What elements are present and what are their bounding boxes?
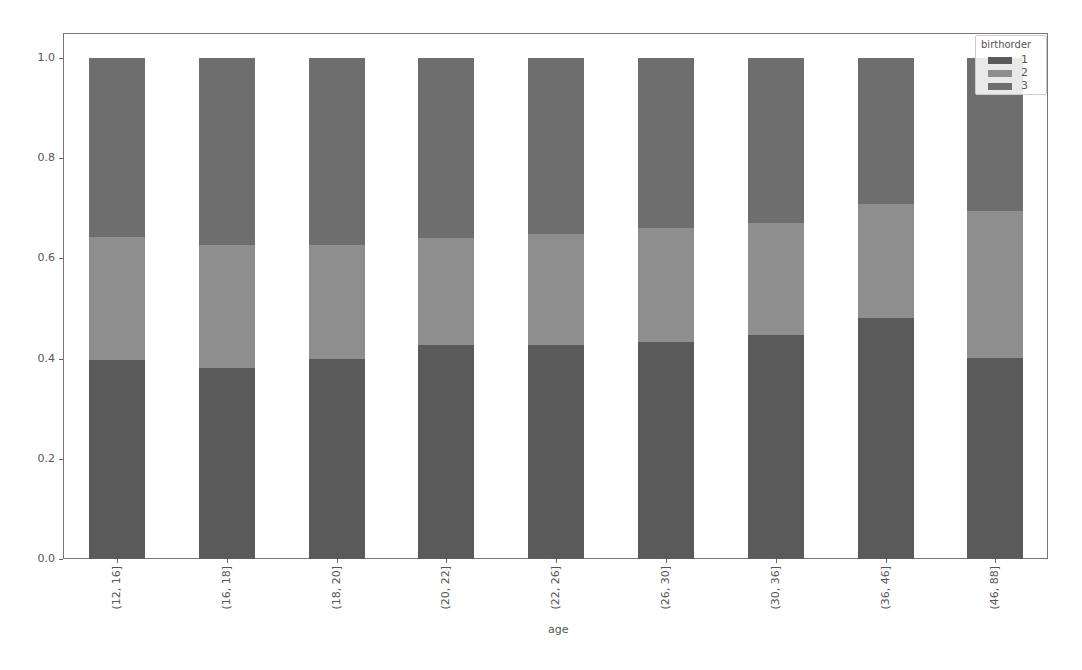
x-tick-label: (30, 36] <box>769 566 782 610</box>
x-tick-mark <box>117 559 118 563</box>
x-tick-mark <box>666 559 667 563</box>
x-tick-mark <box>446 559 447 563</box>
bar-segment-birthorder-2 <box>309 245 365 359</box>
bar-segment-birthorder-3 <box>638 58 694 228</box>
bar-segment-birthorder-3 <box>89 58 145 237</box>
y-tick-mark <box>59 158 63 159</box>
legend-title: birthorder <box>981 39 1031 50</box>
legend-label: 2 <box>1021 66 1028 79</box>
bar-segment-birthorder-2 <box>967 211 1023 358</box>
bar-segment-birthorder-1 <box>309 359 365 559</box>
x-tick-mark <box>886 559 887 563</box>
bar-segment-birthorder-1 <box>418 345 474 559</box>
bar-segment-birthorder-2 <box>528 234 584 345</box>
x-tick-mark <box>337 559 338 563</box>
legend-label: 1 <box>1021 53 1028 66</box>
x-axis-label: age <box>548 623 569 636</box>
bar-segment-birthorder-1 <box>89 360 145 559</box>
y-tick-label: 0.8 <box>0 151 55 164</box>
x-tick-label: (46, 88] <box>988 566 1001 610</box>
x-tick-mark <box>227 559 228 563</box>
x-tick-mark <box>556 559 557 563</box>
x-tick-label: (26, 30] <box>659 566 672 610</box>
bar-segment-birthorder-3 <box>748 58 804 223</box>
y-tick-label: 0.4 <box>0 352 55 365</box>
x-tick-label: (18, 20] <box>330 566 343 610</box>
legend-swatch <box>988 83 1012 90</box>
legend: birthorder 123 <box>975 35 1047 95</box>
y-tick-mark <box>59 559 63 560</box>
x-tick-mark <box>776 559 777 563</box>
bar-segment-birthorder-3 <box>858 58 914 204</box>
bar-segment-birthorder-1 <box>638 342 694 559</box>
x-tick-mark <box>995 559 996 563</box>
x-tick-label: (12, 16] <box>110 566 123 610</box>
y-tick-mark <box>59 58 63 59</box>
y-tick-mark <box>59 258 63 259</box>
legend-swatch <box>988 70 1012 77</box>
legend-label: 3 <box>1021 79 1028 92</box>
y-tick-label: 0.6 <box>0 251 55 264</box>
bar-segment-birthorder-2 <box>89 237 145 360</box>
x-tick-label: (16, 18] <box>220 566 233 610</box>
bar-segment-birthorder-1 <box>967 358 1023 559</box>
y-tick-mark <box>59 459 63 460</box>
bar-segment-birthorder-3 <box>309 58 365 245</box>
y-tick-mark <box>59 359 63 360</box>
bar-segment-birthorder-1 <box>858 318 914 559</box>
y-tick-label: 0.2 <box>0 452 55 465</box>
x-tick-label: (20, 22] <box>439 566 452 610</box>
legend-swatch <box>988 57 1012 64</box>
x-tick-label: (36, 46] <box>879 566 892 610</box>
bar-segment-birthorder-1 <box>199 368 255 559</box>
bar-segment-birthorder-2 <box>638 228 694 342</box>
y-tick-label: 0.0 <box>0 552 55 565</box>
bar-segment-birthorder-2 <box>858 204 914 318</box>
bar-segment-birthorder-1 <box>528 345 584 559</box>
y-tick-label: 1.0 <box>0 51 55 64</box>
x-tick-label: (22, 26] <box>549 566 562 610</box>
bar-segment-birthorder-2 <box>418 238 474 345</box>
bar-segment-birthorder-3 <box>418 58 474 238</box>
bar-segment-birthorder-3 <box>528 58 584 234</box>
bar-segment-birthorder-1 <box>748 335 804 559</box>
bar-segment-birthorder-2 <box>748 223 804 335</box>
bar-segment-birthorder-2 <box>199 245 255 368</box>
bar-segment-birthorder-3 <box>199 58 255 245</box>
